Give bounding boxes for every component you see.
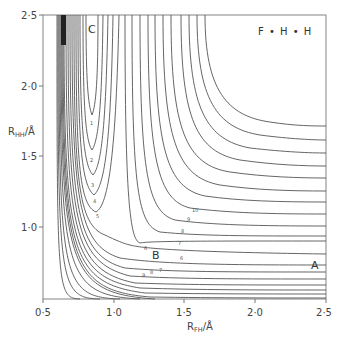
x-axis: 0·5 1·0 1·5 2·0 2·5 RFH/Å (35, 299, 332, 334)
contour-label: 6 (180, 255, 183, 261)
contour-label: 7 (178, 240, 181, 246)
contour-label: 5 (96, 213, 99, 219)
contour-label: 7 (159, 267, 162, 273)
contour-label: 6 (144, 245, 147, 251)
contour-label: 1 (90, 120, 93, 126)
dense-contour-band (61, 15, 66, 45)
x-axis-label: RFH/Å (187, 320, 213, 334)
region-label-a: A (311, 259, 319, 272)
contour-plot: 0·5 1·0 1·5 2·0 2·5 RFH/Å 1·0 1·5 2·0 2·… (0, 0, 341, 338)
y-axis: 1·0 1·5 2·0 2·5 RHH/Å (8, 10, 43, 233)
contour-label: 3 (91, 182, 94, 188)
region-label-b: B (152, 249, 160, 262)
contour-label: 2 (90, 157, 93, 163)
y-tick-label: 1·0 (21, 222, 37, 233)
x-tick-label: 0·5 (35, 307, 51, 318)
contour-label: 10 (192, 207, 198, 213)
x-tick-label: 2·5 (316, 307, 332, 318)
y-tick-label: 2·5 (21, 10, 37, 21)
chart-title: F • H • H (258, 26, 312, 37)
contour-labels: 1 2 3 4 5 6 6 7 8 9 10 7 8 9 (90, 120, 198, 278)
y-tick-label: 2·0 (21, 81, 37, 92)
x-tick-label: 2·0 (247, 307, 263, 318)
x-tick-label: 1·0 (106, 307, 122, 318)
region-label-c: C (88, 23, 96, 36)
x-tick-label: 1·5 (176, 307, 192, 318)
y-tick-label: 1·5 (21, 151, 37, 162)
contour-label: 8 (181, 228, 184, 234)
contour-label: 9 (142, 272, 145, 278)
contour-lines (57, 15, 326, 299)
contour-label: 4 (93, 198, 96, 204)
contour-label: 8 (150, 269, 153, 275)
contour-label: 9 (187, 216, 190, 222)
y-axis-label: RHH/Å (8, 125, 35, 139)
